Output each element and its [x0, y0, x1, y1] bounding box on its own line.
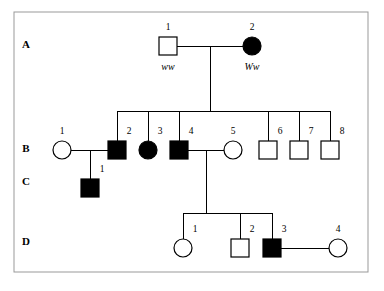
individual-b8-square [321, 141, 339, 159]
pedigree-canvas: 1ww2Ww1234567811234ABCD [0, 0, 384, 291]
individual-b5-number: 5 [231, 126, 236, 136]
generation-label-d: D [22, 235, 30, 247]
pedigree-chart: 1ww2Ww1234567811234ABCD [0, 0, 384, 291]
individual-d4-number: 4 [336, 224, 341, 234]
individual-c1-square [81, 179, 99, 197]
generation-label-b: B [22, 142, 30, 154]
individual-a1-square [159, 37, 177, 55]
individual-d2-square [231, 239, 249, 257]
individual-a2-number: 2 [250, 22, 255, 32]
individual-b2-square [108, 141, 126, 159]
individual-b3-number: 3 [158, 126, 163, 136]
individual-b7-square [290, 141, 308, 159]
individual-d1-circle [174, 239, 192, 257]
generation-label-c: C [22, 175, 30, 187]
individual-b1-number: 1 [60, 126, 65, 136]
individual-a1-number: 1 [166, 22, 171, 32]
individual-a2-circle [243, 37, 261, 55]
individual-b4-square [170, 141, 188, 159]
individual-b1-circle [53, 141, 71, 159]
individual-b5-circle [224, 141, 242, 159]
individual-b6-number: 6 [278, 126, 283, 136]
generation-label-a: A [22, 38, 30, 50]
individual-b7-number: 7 [309, 126, 314, 136]
individual-d1-number: 1 [193, 224, 198, 234]
individual-b4-number: 4 [189, 126, 194, 136]
individual-d4-circle [329, 239, 347, 257]
individual-d2-number: 2 [250, 224, 255, 234]
individual-b8-number: 8 [340, 126, 345, 136]
individual-d3-number: 3 [282, 224, 287, 234]
individual-b3-circle [139, 141, 157, 159]
individual-a2-genotype: Ww [245, 61, 260, 72]
individual-b6-square [259, 141, 277, 159]
individual-c1-number: 1 [100, 164, 105, 174]
individual-a1-genotype: ww [161, 61, 175, 72]
individual-d3-square [263, 239, 281, 257]
individual-b2-number: 2 [127, 126, 132, 136]
